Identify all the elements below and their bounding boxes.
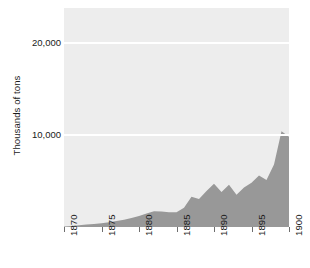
gridline-y-20000: [64, 42, 289, 44]
x-tick-mark-1895: [252, 227, 253, 232]
x-tick-mark-1870: [64, 227, 65, 232]
y-axis-tick-labels: 10,00020,000: [0, 0, 61, 268]
plot-area: [64, 8, 289, 227]
x-tick-label-1895: 1895: [256, 214, 267, 236]
x-tick-label-1870: 1870: [68, 214, 79, 236]
x-tick-label-1890: 1890: [218, 214, 229, 236]
gridline-y-10000: [64, 134, 289, 136]
y-tick-label-10000: 10,000: [7, 129, 61, 140]
x-tick-mark-1880: [139, 227, 140, 232]
x-tick-label-1880: 1880: [143, 214, 154, 236]
x-tick-label-1885: 1885: [181, 214, 192, 236]
x-tick-label-1900: 1900: [293, 214, 304, 236]
x-tick-label-1875: 1875: [106, 214, 117, 236]
x-tick-mark-1885: [177, 227, 178, 232]
y-tick-label-20000: 20,000: [7, 37, 61, 48]
area-series-path: [64, 131, 289, 227]
x-tick-mark-1900: [289, 227, 290, 232]
x-tick-mark-1875: [102, 227, 103, 232]
chart-figure: Thousands of tons 10,00020,000 187018751…: [0, 0, 310, 268]
area-series: [64, 8, 289, 227]
x-tick-mark-1890: [214, 227, 215, 232]
